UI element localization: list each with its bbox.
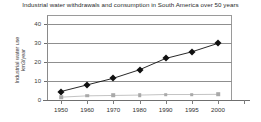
y-tick-mark xyxy=(44,43,47,44)
x-tick-label: 1990 xyxy=(154,106,178,113)
y-axis-label-wrapper: Industrial water use km3/year xyxy=(13,22,27,98)
data-point-marker xyxy=(85,94,89,98)
y-axis-label: Industrial water use km3/year xyxy=(14,37,27,84)
plot-area xyxy=(47,15,232,100)
data-point-marker xyxy=(138,93,142,97)
x-tick-mark xyxy=(140,100,141,104)
y-tick-label: 10 xyxy=(34,78,41,84)
x-tick-label: 2000 xyxy=(206,106,230,113)
x-tick-mark xyxy=(87,100,88,104)
y-tick-mark xyxy=(44,24,47,25)
y-tick-mark xyxy=(44,81,47,82)
chart-container: Industrial water withdrawals and consump… xyxy=(0,0,261,122)
x-tick-label: 1980 xyxy=(128,106,152,113)
x-tick-mark xyxy=(113,100,114,104)
x-tick-label: 1950 xyxy=(49,106,73,113)
chart-title: Industrial water withdrawals and consump… xyxy=(0,1,261,9)
x-tick-label: 1970 xyxy=(101,106,125,113)
x-tick-mark xyxy=(192,100,193,104)
x-tick-mark xyxy=(61,100,62,104)
series-polylines xyxy=(47,15,232,100)
x-tick-label: 1960 xyxy=(75,106,99,113)
y-axis-label-line2: km3/year xyxy=(20,49,26,71)
y-tick-label: 40 xyxy=(34,21,41,27)
data-point-marker xyxy=(216,93,220,97)
y-tick-label: 20 xyxy=(34,59,41,65)
data-point-marker xyxy=(59,95,63,99)
data-point-marker xyxy=(190,93,194,97)
data-point-marker xyxy=(164,93,168,97)
x-tick-label: 1995 xyxy=(180,106,204,113)
y-axis-label-line1: Industrial water use xyxy=(14,37,20,84)
x-tick-mark xyxy=(218,100,219,104)
y-tick-mark xyxy=(44,62,47,63)
x-tick-mark xyxy=(166,100,167,104)
x-tick-mark xyxy=(244,100,245,104)
data-point-marker xyxy=(112,94,116,98)
y-tick-label: 30 xyxy=(34,40,41,46)
y-tick-label: 0 xyxy=(38,97,41,103)
